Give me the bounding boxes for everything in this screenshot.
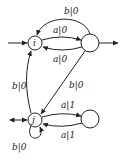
edge-label-j-to-q2: a|1 [61,100,75,111]
node-j [28,113,42,127]
transducer-diagram: i j b|0 a|0 a|0 b|0 b|0 a|1 a|1 b|0 [0,0,123,162]
edge-label-j-to-i: b|0 [12,81,27,92]
edge-label-q1-to-i: a|0 [53,54,67,65]
edge-label-q2-to-j: a|1 [61,130,75,141]
edge-label-q1-to-j: b|0 [69,80,84,91]
edge-label-j-loop: b|0 [12,142,27,153]
edge-j-to-i [27,51,32,113]
node-j-label: j [30,115,35,125]
edge-label-top-arc: b|0 [64,6,79,17]
edge-label-i-to-q1: a|0 [53,25,67,36]
edge-j-to-q2 [42,114,81,117]
node-q1 [81,34,99,52]
node-i-label: i [33,38,36,48]
node-q2 [81,110,99,128]
edge-q2-to-j [43,123,82,126]
edge-i-to-q1 [42,37,81,40]
edge-j-self-loop [30,126,41,138]
edge-q1-to-i-lower [43,47,82,50]
